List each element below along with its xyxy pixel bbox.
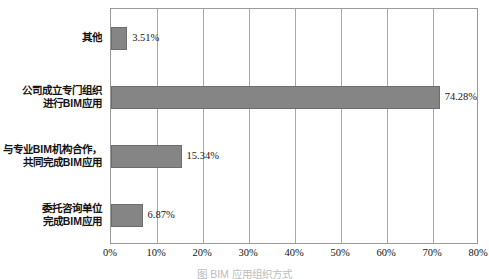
x-tick-label: 40% bbox=[284, 246, 303, 260]
bar bbox=[111, 86, 440, 109]
category-label-line: 其他 bbox=[82, 31, 102, 44]
x-tick-label: 70% bbox=[422, 246, 441, 260]
bar-value-label: 74.28% bbox=[445, 92, 477, 103]
x-tick-label: 30% bbox=[238, 246, 257, 260]
bar bbox=[111, 27, 127, 50]
category-label-weituo-zixun: 委托咨询单位 完成BIM应用 bbox=[0, 185, 106, 244]
x-tick-label: 10% bbox=[146, 246, 165, 260]
plot-area: 3.51%74.28%15.34%6.87% bbox=[110, 8, 478, 244]
x-tick-label: 60% bbox=[376, 246, 395, 260]
bar-row: 6.87% bbox=[111, 186, 477, 245]
category-label-line: 公司成立专门组织 bbox=[22, 84, 102, 97]
bar-row: 3.51% bbox=[111, 9, 477, 68]
category-label-qita: 其他 bbox=[0, 8, 106, 67]
bar-row: 74.28% bbox=[111, 68, 477, 127]
category-label-line: 进行BIM应用 bbox=[43, 97, 102, 110]
bar-value-label: 6.87% bbox=[148, 210, 175, 221]
category-label-line: 与专业BIM机构合作， bbox=[3, 143, 102, 156]
bar-row: 15.34% bbox=[111, 127, 477, 186]
category-label-line: 共同完成BIM应用 bbox=[23, 156, 102, 169]
category-label-gongsi-chengli: 公司成立专门组织 进行BIM应用 bbox=[0, 67, 106, 126]
x-tick-label: 80% bbox=[468, 246, 487, 260]
category-label-zhuanye-bim-hezuo: 与专业BIM机构合作， 共同完成BIM应用 bbox=[0, 126, 106, 185]
category-axis-labels: 其他 公司成立专门组织 进行BIM应用 与专业BIM机构合作， 共同完成BIM应… bbox=[0, 8, 106, 244]
bar-value-label: 15.34% bbox=[187, 151, 219, 162]
x-tick-label: 50% bbox=[330, 246, 349, 260]
bar bbox=[111, 204, 143, 227]
bar-value-label: 3.51% bbox=[132, 33, 159, 44]
x-axis: 0%10%20%30%40%50%60%70%80% bbox=[110, 246, 478, 262]
x-tick-label: 0% bbox=[103, 246, 117, 260]
x-tick-label: 20% bbox=[192, 246, 211, 260]
figure-caption: 图 BIM 应用组织方式 bbox=[0, 268, 489, 279]
bar-chart-figure: 其他 公司成立专门组织 进行BIM应用 与专业BIM机构合作， 共同完成BIM应… bbox=[0, 0, 489, 279]
bar bbox=[111, 145, 182, 168]
category-label-line: 完成BIM应用 bbox=[43, 215, 102, 228]
category-label-line: 委托咨询单位 bbox=[42, 202, 102, 215]
